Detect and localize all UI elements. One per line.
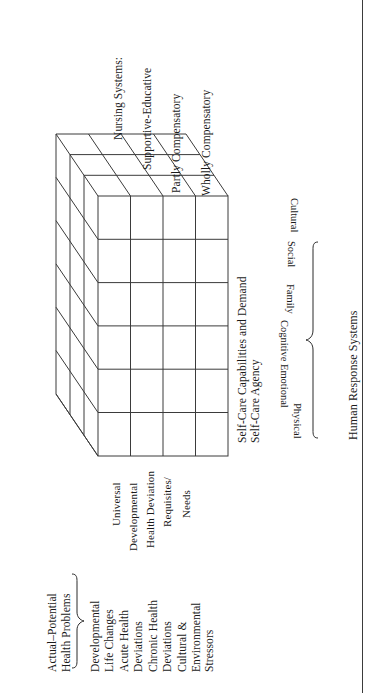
actual-potential-brace [72,574,84,668]
requisite-health-deviation: Health Deviation [144,471,157,548]
requisite-requisites: Requisites/ [161,477,174,527]
human-response-item-emotional: Emotional [278,364,290,408]
diagram-canvas: Nursing Systems: Supportive-Educative Pa… [0,0,372,693]
actual-potential-label-line1: Actual–Potential [46,593,59,672]
nursing-system-partly-compensatory: Partly Compensatory [170,94,183,193]
requisite-developmental: Developmental [127,483,140,552]
requisite-needs: Needs [180,490,193,518]
problem-cultural-environmental-stressors: Cultural & Environmental Stressors [176,602,217,672]
nursing-systems-heading: Nursing Systems: [112,57,125,140]
human-response-brace [306,242,318,438]
human-response-item-cognitive: Cognitive [278,320,290,361]
self-care-axis-line1: Self-Care Capabilities and Demand [236,277,250,443]
cube-graphic [0,0,372,693]
nursing-system-wholly-compensatory: Wholly Compensatory [200,90,213,196]
nursing-system-supportive-educative: Supportive-Educative [141,68,154,170]
human-response-item-family: Family [284,284,296,314]
problem-acute-health-deviations: Acute Health Deviations [118,610,145,672]
human-response-item-cultural: Cultural [288,198,300,232]
requisite-universal: Universal [110,482,123,526]
human-response-item-social: Social [285,241,297,267]
actual-potential-label-line2: Health Problems [60,594,73,672]
self-care-axis-line2: Self-Care Agency [249,359,263,443]
human-response-item-physical: Physical [291,403,303,439]
problem-chronic-health-deviations: Chronic Health Deviations [147,600,174,672]
human-response-systems-label: Human Response Systems [347,310,360,440]
problem-developmental-life-changes: Developmental Life Changes [89,600,116,672]
